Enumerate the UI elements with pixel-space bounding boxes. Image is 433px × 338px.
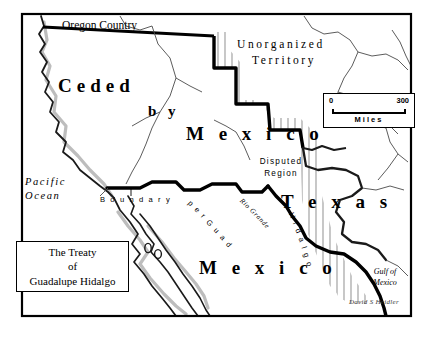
label-boundary: B o u n d a r y [100,196,171,204]
label-gulf-of-mexico-line1: Gulf of [363,267,407,278]
label-disputed-region-line1: Disputed [250,156,312,168]
map-title-line1: The Treaty [49,245,97,259]
map-title-line2: of [68,259,77,273]
map-title-line3: Guadalupe Hidalgo [30,274,116,288]
label-gulf-of-mexico-line2: Mexico [363,278,407,289]
label-unorganized-territory-line1: Unorganized [237,38,325,50]
treaty-map: p e r G u a d a l u p e H i d a l g o Ri… [0,0,433,338]
label-pacific-ocean-line2: Ocean [25,190,60,201]
scale-unit-label: Miles [324,115,414,124]
cartographer-signature: David S Heidler [349,298,399,306]
label-disputed-region-line2: Region [250,168,312,180]
map-title-box: The Treaty of Guadalupe Hidalgo [16,241,129,292]
scale-bar-box: 0 300 Miles [323,93,415,128]
scale-min-label: 0 [329,96,333,105]
label-texas: T e x a s [281,192,392,212]
scale-rule-graphic [332,109,406,114]
label-mexico: M e x i c o [199,258,337,278]
scale-numbers: 0 300 [329,96,409,105]
label-oregon-country: Oregon Country [62,19,137,31]
label-pacific-ocean-line1: Pacific [25,176,66,187]
label-ceded-by-mexico: M e x i c o [186,124,324,144]
label-ceded: Ceded [58,76,135,96]
label-unorganized-territory-line2: Territory [252,54,316,66]
scale-max-label: 300 [396,96,409,105]
label-by: b y [148,104,180,120]
